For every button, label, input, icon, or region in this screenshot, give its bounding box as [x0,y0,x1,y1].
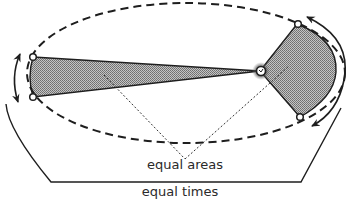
planet-position-1 [30,54,37,61]
planet-position-2 [30,94,37,101]
sun-icon [257,67,266,76]
pointer-line-left [104,75,185,159]
planet-position-3 [295,21,302,28]
equal-times-label: equal times [142,185,218,198]
equal-areas-label: equal areas [147,158,223,171]
arrow-left-icon [14,54,20,102]
planet-position-4 [297,114,304,121]
sector-aphelion [30,57,260,97]
